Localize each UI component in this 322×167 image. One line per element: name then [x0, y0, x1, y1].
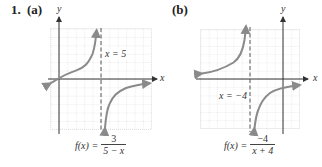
asymptote-label-b: x = −4: [218, 90, 248, 101]
formula-a-fraction: 3 5 − x: [101, 134, 126, 156]
x-axis-label-a: x: [160, 72, 164, 83]
formula-b: f(x) = −4 x + 4: [224, 134, 275, 156]
x-axis-label-b: x: [313, 72, 317, 83]
formula-a: f(x) = 3 5 − x: [75, 134, 126, 156]
formula-a-denominator: 5 − x: [101, 144, 126, 156]
graph-b: [196, 17, 308, 134]
y-axis-label-a: y: [57, 3, 61, 14]
asymptote-label-a: x = 5: [104, 48, 127, 59]
formula-a-numerator: 3: [109, 134, 118, 144]
y-axis-label-b: y: [281, 3, 285, 14]
formula-b-lhs: f(x) =: [224, 140, 247, 151]
formula-b-numerator: −4: [255, 134, 270, 144]
formula-b-fraction: −4 x + 4: [250, 134, 275, 156]
graph-a: [48, 17, 157, 134]
formula-b-denominator: x + 4: [250, 144, 275, 156]
formula-a-lhs: f(x) =: [75, 140, 98, 151]
